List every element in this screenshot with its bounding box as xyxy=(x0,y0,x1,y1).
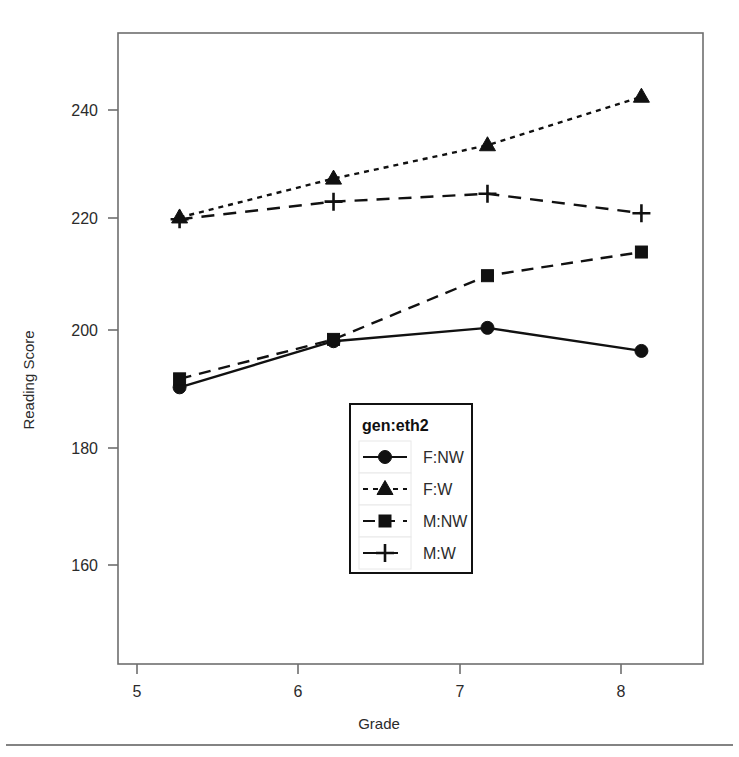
circle-marker xyxy=(481,321,494,334)
square-marker xyxy=(379,515,391,527)
reading-score-line-chart: 240 220 200 180 160 5 6 7 8 Grade Readin… xyxy=(0,0,739,757)
legend-title: gen:eth2 xyxy=(362,417,429,434)
legend-label: M:NW xyxy=(423,513,468,530)
circle-marker xyxy=(635,344,648,357)
square-marker xyxy=(174,373,186,385)
y-tick-label: 240 xyxy=(71,102,98,119)
legend-label: M:W xyxy=(423,545,457,562)
y-tick-label: 160 xyxy=(71,557,98,574)
y-axis-title: Reading Score xyxy=(20,330,37,429)
chart-figure: 240 220 200 180 160 5 6 7 8 Grade Readin… xyxy=(0,0,739,757)
square-marker xyxy=(635,246,647,258)
circle-marker xyxy=(379,451,392,464)
figure-background xyxy=(0,0,739,757)
x-tick-label: 8 xyxy=(617,683,626,700)
square-marker xyxy=(328,333,340,345)
chart-legend: gen:eth2 F:NWF:WM:NWM:W xyxy=(350,404,472,573)
y-tick-label: 220 xyxy=(71,210,98,227)
y-tick-label: 200 xyxy=(71,322,98,339)
x-tick-label: 6 xyxy=(294,683,303,700)
legend-label: F:NW xyxy=(423,449,465,466)
x-tick-label: 5 xyxy=(133,683,142,700)
y-tick-label: 180 xyxy=(71,440,98,457)
x-tick-label: 7 xyxy=(456,683,465,700)
square-marker xyxy=(481,270,493,282)
legend-label: F:W xyxy=(423,481,453,498)
x-axis-title: Grade xyxy=(358,715,400,732)
